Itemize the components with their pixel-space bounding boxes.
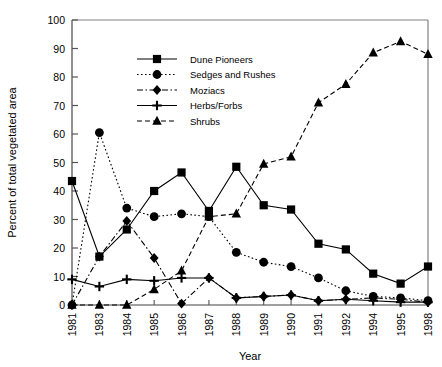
data-point-circle [122,204,131,213]
legend-label: Shrubs [190,116,220,127]
data-point-circle [153,70,162,79]
data-point-square [314,240,322,248]
line-chart: 0102030405060708090100198119831984198519… [0,0,442,367]
x-tick-label: 1981 [66,313,78,337]
data-point-plus [177,273,186,282]
legend-item-herbs-forbs[interactable]: Herbs/Forbs [137,100,243,111]
series-line [72,167,428,284]
data-point-plus [259,292,268,301]
y-tick-label: 50 [53,157,65,169]
data-point-plus [286,290,295,299]
data-point-triangle [314,97,323,106]
x-tick-label: 1986 [176,313,188,337]
data-point-circle [259,258,268,267]
data-point-plus [204,273,213,282]
data-point-triangle [152,116,161,125]
data-point-triangle [122,300,131,309]
data-point-circle [177,209,186,218]
y-tick-label: 40 [53,185,65,197]
legend-item-shrubs[interactable]: Shrubs [137,116,220,127]
x-tick-label: 1987 [203,313,215,337]
data-point-triangle [177,266,186,275]
x-tick-label: 1983 [93,313,105,337]
x-axis-title: Year [239,350,262,362]
x-tick-label: 1998 [422,313,434,337]
data-point-circle [95,128,104,137]
data-point-square [153,55,161,63]
data-point-diamond [153,85,162,95]
data-point-triangle [396,36,405,45]
data-point-square [287,205,295,213]
data-point-square [424,262,432,270]
legend-item-dune-pioneers[interactable]: Dune Pioneers [137,54,253,65]
legend-item-sedges-and-rushes[interactable]: Sedges and Rushes [137,69,276,80]
y-tick-label: 30 [53,214,65,226]
data-point-plus [152,101,161,110]
data-point-plus [232,293,241,302]
y-tick-label: 0 [59,299,65,311]
chart-legend: Dune PioneersSedges and RushesMoziacsHer… [137,54,276,127]
x-tick-label: 1992 [340,313,352,337]
data-point-triangle [369,48,378,57]
data-point-triangle [232,209,241,218]
y-axis-ticks: 0102030405060708090100 [47,14,78,311]
data-point-plus [341,295,350,304]
x-tick-label: 1991 [312,313,324,337]
data-point-circle [232,248,241,257]
data-point-triangle [286,152,295,161]
series-herbs-forbs [67,273,432,307]
x-tick-label: 1989 [258,313,270,337]
data-point-square [123,225,131,233]
data-point-square [342,245,350,253]
data-point-plus [122,275,131,284]
legend-label: Moziacs [190,85,225,96]
y-tick-label: 70 [53,100,65,112]
x-tick-label: 1995 [395,313,407,337]
legend-label: Sedges and Rushes [190,69,276,80]
legend-label: Dune Pioneers [190,54,253,65]
y-tick-label: 60 [53,128,65,140]
series-line [72,41,428,305]
data-point-square [260,201,268,209]
data-point-plus [95,282,104,291]
x-tick-label: 1985 [148,313,160,337]
chart-figure: 0102030405060708090100198119831984198519… [0,0,442,367]
series-moziacs [68,216,433,310]
x-tick-label: 1984 [121,313,133,337]
data-point-circle [150,212,159,221]
data-point-square [397,280,405,288]
data-point-circle [314,274,323,283]
series-dune-pioneers [68,163,432,288]
data-point-triangle [341,79,350,88]
y-tick-label: 10 [53,271,65,283]
series-sedges-and-rushes [68,128,433,309]
data-point-triangle [423,49,432,58]
data-point-square [232,163,240,171]
y-tick-label: 100 [47,14,65,26]
data-point-square [177,168,185,176]
data-point-square [369,270,377,278]
y-tick-label: 90 [53,43,65,55]
data-point-plus [149,276,158,285]
legend-item-moziacs[interactable]: Moziacs [137,85,225,96]
data-point-circle [341,286,350,295]
x-tick-label: 1988 [230,313,242,337]
y-tick-label: 80 [53,71,65,83]
data-point-square [150,187,158,195]
data-point-plus [314,296,323,305]
legend-label: Herbs/Forbs [190,100,243,111]
data-point-triangle [95,300,104,309]
data-point-triangle [149,284,158,293]
data-point-square [68,177,76,185]
y-tick-label: 20 [53,242,65,254]
x-tick-label: 1990 [285,313,297,337]
data-point-circle [287,262,296,271]
x-tick-label: 1994 [367,313,379,337]
y-axis-title: Percent of total vegetated area [6,86,18,237]
